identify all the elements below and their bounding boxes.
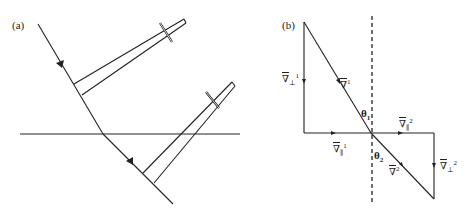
refracted-ray <box>103 134 173 204</box>
panel-b-label: (b) <box>282 20 295 31</box>
panel-a-label: (a) <box>12 20 24 31</box>
v-2-label: ∇2 <box>389 166 399 177</box>
v-par-2-label: ∇∥2 <box>399 118 413 132</box>
v-perp-1-label: ∇⊥1 <box>282 73 299 87</box>
theta-2-label: θ2 <box>374 150 383 164</box>
v-par-1-label: ∇∥1 <box>333 143 347 157</box>
figure-drawing <box>0 0 466 221</box>
incident-ray <box>38 24 103 134</box>
theta-1-label: θ1 <box>361 108 370 122</box>
v-perp-2-label: ∇⊥2 <box>440 160 457 174</box>
v-1-label: ∇1 <box>340 79 350 90</box>
refraction-figure: (a) (b) ∇⊥1 ∇1 ∇∥1 ∇∥2 ∇2 ∇⊥2 θ1 θ2 <box>0 0 466 221</box>
